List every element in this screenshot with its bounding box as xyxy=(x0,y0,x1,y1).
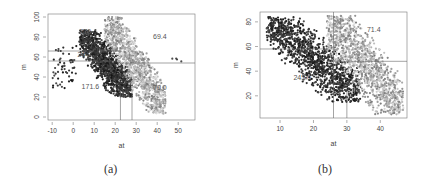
data-point xyxy=(331,68,333,70)
data-point xyxy=(61,81,63,83)
data-point xyxy=(367,78,369,80)
data-point xyxy=(310,32,312,34)
data-point xyxy=(322,43,324,45)
data-point xyxy=(117,35,119,37)
data-point xyxy=(176,58,178,60)
data-point xyxy=(372,89,374,91)
data-point xyxy=(390,71,392,73)
data-point xyxy=(287,54,289,56)
data-point xyxy=(352,50,354,52)
data-point xyxy=(325,57,327,59)
data-point xyxy=(281,20,283,22)
data-point xyxy=(376,96,378,98)
data-point xyxy=(391,82,393,84)
data-point xyxy=(113,86,115,88)
data-point xyxy=(134,71,136,73)
data-point xyxy=(280,33,282,35)
data-point xyxy=(121,82,123,84)
data-point xyxy=(401,88,403,90)
data-point xyxy=(390,102,392,104)
data-point xyxy=(387,72,389,74)
data-point xyxy=(344,97,346,99)
x-tick-label: 20 xyxy=(112,127,120,134)
data-point xyxy=(296,58,298,60)
data-point xyxy=(129,54,131,56)
data-point xyxy=(57,64,59,66)
data-point xyxy=(152,93,154,95)
data-point xyxy=(111,67,113,69)
data-point xyxy=(272,23,274,25)
data-point xyxy=(360,77,362,79)
data-point xyxy=(107,63,109,65)
data-point xyxy=(159,79,161,81)
data-point xyxy=(275,20,277,22)
data-point xyxy=(402,104,404,106)
data-point xyxy=(146,62,148,64)
data-point xyxy=(348,94,350,96)
data-point xyxy=(90,59,92,61)
data-point xyxy=(113,93,115,95)
data-point xyxy=(272,17,274,19)
data-point xyxy=(385,111,387,113)
annotation-label: 69.4 xyxy=(153,33,167,40)
data-point xyxy=(327,15,329,17)
data-point xyxy=(335,44,337,46)
data-point xyxy=(346,45,348,47)
data-point xyxy=(116,69,118,71)
data-point xyxy=(266,39,268,41)
data-point xyxy=(271,39,273,41)
data-point xyxy=(113,36,115,38)
data-point xyxy=(391,105,393,107)
data-point xyxy=(344,40,346,42)
data-point xyxy=(285,20,287,22)
data-point xyxy=(337,41,339,43)
data-point xyxy=(330,15,332,17)
data-point xyxy=(107,69,109,71)
data-point xyxy=(304,63,306,65)
data-point xyxy=(110,65,112,67)
data-point xyxy=(335,86,337,88)
data-point xyxy=(68,80,70,82)
data-point xyxy=(93,69,95,71)
data-point xyxy=(371,55,373,57)
data-point xyxy=(341,101,343,103)
data-point xyxy=(307,31,309,33)
data-point xyxy=(119,79,121,81)
data-point xyxy=(394,97,396,99)
data-point xyxy=(139,51,141,53)
data-point xyxy=(350,29,352,31)
data-point xyxy=(101,39,103,41)
data-point xyxy=(118,32,120,34)
data-point xyxy=(132,68,134,70)
data-point xyxy=(108,91,110,93)
data-point xyxy=(367,96,369,98)
data-point xyxy=(401,82,403,84)
data-point xyxy=(128,95,130,97)
data-point xyxy=(357,26,359,28)
data-point xyxy=(153,111,155,113)
data-point xyxy=(379,91,381,93)
data-point xyxy=(148,86,150,88)
data-point xyxy=(116,26,118,28)
data-point xyxy=(376,91,378,93)
data-point xyxy=(355,27,357,29)
data-point xyxy=(316,69,318,71)
data-point xyxy=(373,55,375,57)
data-point xyxy=(90,46,92,48)
data-point xyxy=(343,92,345,94)
y-tick-label: 80 xyxy=(245,18,252,26)
data-point xyxy=(361,49,363,51)
data-point xyxy=(300,31,302,33)
data-point xyxy=(350,96,352,98)
data-point xyxy=(97,70,99,72)
data-point xyxy=(325,84,327,86)
data-point xyxy=(352,43,354,45)
data-point xyxy=(335,21,337,23)
data-point xyxy=(152,100,154,102)
data-point xyxy=(329,21,331,23)
data-point xyxy=(386,74,388,76)
data-point xyxy=(63,62,65,64)
data-point xyxy=(375,85,377,87)
data-point xyxy=(310,42,312,44)
data-point xyxy=(346,30,348,32)
